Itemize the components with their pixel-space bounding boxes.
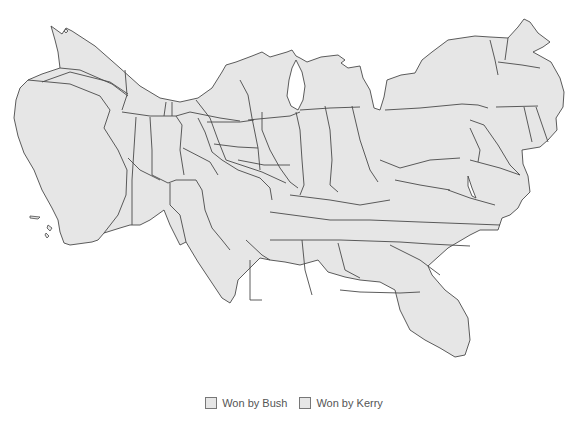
legend-swatch-bush [205, 397, 217, 409]
legend-item-kerry: Won by Kerry [299, 397, 382, 409]
cartogram-map [0, 0, 588, 385]
legend-item-bush: Won by Bush [205, 397, 287, 409]
legend: Won by Bush Won by Kerry [0, 397, 588, 409]
island [30, 216, 40, 219]
us-landmass [14, 19, 564, 357]
island [47, 225, 52, 231]
island [45, 233, 49, 238]
legend-swatch-kerry [299, 397, 311, 409]
legend-label-kerry: Won by Kerry [316, 397, 382, 409]
legend-label-bush: Won by Bush [222, 397, 287, 409]
